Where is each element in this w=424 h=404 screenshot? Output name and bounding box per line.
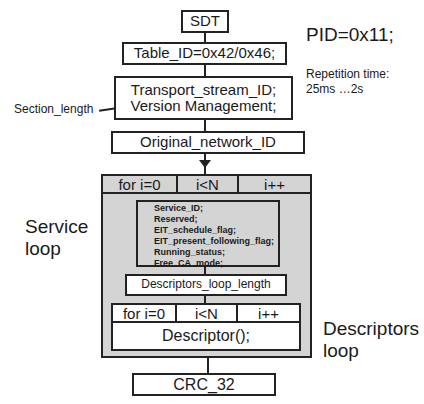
service-loop-label-line1: Service (25, 216, 88, 238)
service-loop-init-label: for i=0 (118, 176, 160, 193)
connector-fields-dll (204, 267, 206, 274)
repetition-time-line2: 25ms …2s (306, 82, 363, 96)
crc-box: CRC_32 (132, 373, 276, 396)
descriptors-loop-label-line1: Descriptors (323, 318, 419, 340)
service-loop-condition: i<N (178, 176, 239, 194)
transport-stream-box: Transport_stream_ID; Version Management; (114, 76, 293, 120)
connector-dll-descloop (204, 296, 206, 303)
descriptors-loop-condition-label: i<N (195, 305, 218, 322)
service-loop-condition-label: i<N (196, 176, 219, 193)
section-length-label: Section_length (14, 102, 93, 116)
sdt-box: SDT (181, 10, 229, 33)
service-loop-label-line2: loop (25, 238, 61, 260)
table-id-box: Table_ID=0x42/0x46; (122, 42, 287, 65)
sdt-label: SDT (190, 13, 220, 30)
field-eit-present-following-flag: EIT_present_following_flag; (154, 236, 278, 247)
descriptors-loop-box: for i=0 i<N i++ Descriptor(); (111, 303, 301, 351)
descriptors-loop-condition: i<N (177, 305, 238, 323)
service-loop-increment-label: i++ (264, 176, 285, 193)
descriptors-loop-init-label: for i=0 (123, 305, 165, 322)
arrow-down-icon (199, 160, 211, 168)
field-running-status: Running_status; (154, 247, 278, 258)
crc-label: CRC_32 (173, 376, 234, 394)
connector-transport-network (204, 120, 206, 131)
service-fields-box: Service_ID; Reserved; EIT_schedule_flag;… (136, 200, 280, 267)
field-service-id: Service_ID; (154, 203, 278, 214)
descriptors-loop-length-label: Descriptors_loop_length (141, 278, 270, 291)
connector-tableid-transport (204, 65, 206, 76)
field-reserved: Reserved; (154, 214, 278, 225)
descriptors-loop-init: for i=0 (113, 305, 177, 323)
descriptors-loop-increment: i++ (238, 305, 299, 323)
original-network-box: Original_network_ID (111, 131, 305, 154)
field-free-ca-mode: Free_CA_mode; (154, 258, 278, 269)
original-network-label: Original_network_ID (140, 134, 276, 151)
descriptor-call: Descriptor(); (113, 323, 299, 349)
service-loop-increment: i++ (239, 176, 310, 194)
descriptors-loop-increment-label: i++ (258, 305, 279, 322)
connector-sdt-tableid (204, 33, 206, 42)
field-eit-schedule-flag: EIT_schedule_flag; (154, 225, 278, 236)
version-management-label: Version Management; (131, 98, 277, 115)
transport-stream-id-label: Transport_stream_ID; (131, 82, 276, 99)
service-loop-init: for i=0 (103, 176, 178, 194)
descriptors-loop-length-box: Descriptors_loop_length (125, 274, 287, 296)
table-id-label: Table_ID=0x42/0x46; (134, 45, 275, 62)
pid-label: PID=0x11; (306, 24, 394, 46)
descriptors-loop-label-line2: loop (323, 340, 359, 362)
connector-loop-crc (207, 358, 209, 373)
repetition-time-line1: Repetition time: (306, 67, 389, 81)
descriptor-call-label: Descriptor(); (162, 327, 250, 345)
